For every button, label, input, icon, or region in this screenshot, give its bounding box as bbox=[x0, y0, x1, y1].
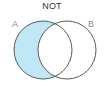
set-label-a: A bbox=[12, 19, 18, 29]
set-label-b: B bbox=[88, 19, 94, 29]
venn-diagram bbox=[0, 0, 104, 87]
